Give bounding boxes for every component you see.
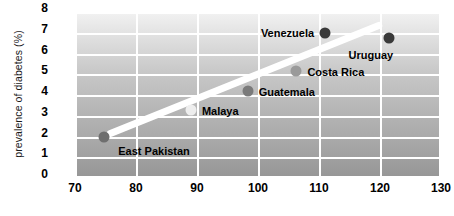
data-point — [242, 85, 253, 96]
x-axis-tick-label: 90 — [177, 182, 217, 194]
gridline-horizontal — [75, 74, 441, 76]
x-axis-tick-label: 110 — [299, 182, 339, 194]
y-axis-tick-labels: 012345678 — [26, 8, 48, 178]
y-axis-tick-label: 4 — [26, 85, 48, 97]
x-axis-tick-label: 70 — [55, 182, 95, 194]
data-point-label: Guatemala — [259, 86, 315, 97]
x-axis-tick-label: 130 — [421, 182, 454, 194]
y-axis-title: prevalence of diabetes (%) — [12, 14, 24, 174]
gridline-horizontal — [75, 12, 441, 14]
data-point — [291, 66, 302, 77]
gridline-horizontal — [75, 157, 441, 159]
data-point — [99, 131, 110, 142]
data-point-label: Malaya — [202, 105, 239, 116]
y-axis-tick-label: 3 — [26, 106, 48, 118]
y-axis-tick-label: 6 — [26, 44, 48, 56]
plot-area: East PakistanMalayaGuatemalaCosta RicaVe… — [75, 12, 441, 178]
data-point-label: Venezuela — [261, 27, 314, 38]
gridline-horizontal — [75, 137, 441, 139]
data-point-label: Costa Rica — [307, 67, 364, 78]
gridline-horizontal — [75, 176, 441, 178]
y-axis-tick-label: 0 — [26, 168, 48, 180]
x-axis-tick-label: 120 — [360, 182, 400, 194]
x-axis-tick-label: 80 — [116, 182, 156, 194]
y-axis-tick-label: 2 — [26, 127, 48, 139]
data-point-label: East Pakistan — [118, 145, 190, 156]
y-axis-tick-label: 1 — [26, 147, 48, 159]
gridline-horizontal — [75, 116, 441, 118]
y-axis-tick-label: 7 — [26, 23, 48, 35]
data-point — [185, 104, 196, 115]
x-axis-tick-labels: 708090100110120130 — [0, 182, 454, 198]
diabetes-prevalence-scatter-chart: prevalence of diabetes (%) 012345678 Eas… — [0, 0, 454, 216]
y-axis-tick-label: 8 — [26, 2, 48, 14]
data-point — [384, 32, 395, 43]
data-point-label: Uruguay — [349, 49, 394, 60]
x-axis-tick-label: 100 — [238, 182, 278, 194]
y-axis-tick-label: 5 — [26, 64, 48, 76]
data-point — [320, 27, 331, 38]
